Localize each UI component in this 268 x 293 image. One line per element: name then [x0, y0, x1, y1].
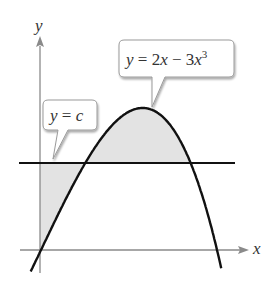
y-axis-arrow-icon: [36, 36, 44, 47]
callout-line-label: y = c: [48, 106, 84, 125]
shaded-region-arch: [85, 108, 190, 163]
graph-canvas: x y y = 2x − 3x3 y = c: [0, 0, 268, 293]
x-axis-label: x: [252, 239, 261, 258]
figure: x y y = 2x − 3x3 y = c: [0, 0, 268, 293]
y-axis-label: y: [33, 16, 43, 35]
callout-cubic-label: y = 2x − 3x3: [124, 48, 208, 69]
